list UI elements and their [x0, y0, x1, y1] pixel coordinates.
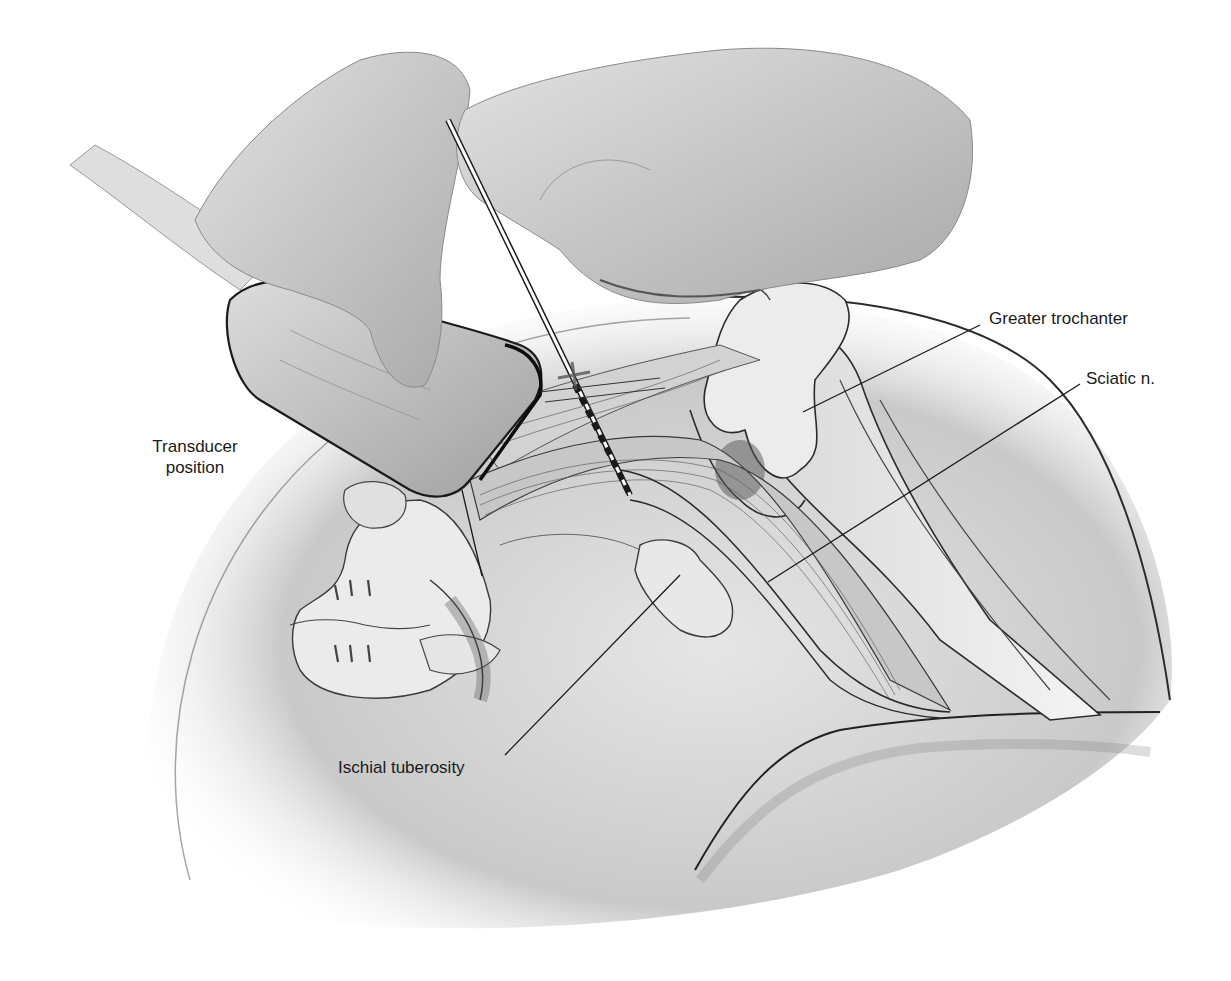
- label-transducer-line2: position: [140, 457, 250, 478]
- label-transducer-line1: Transducer: [140, 436, 250, 457]
- right-gloved-hand: [457, 48, 973, 303]
- label-greater-trochanter: Greater trochanter: [989, 308, 1128, 329]
- anatomy-drawing: [0, 0, 1231, 981]
- illustration: Transducer position Greater trochanter S…: [0, 0, 1231, 981]
- label-transducer-position: Transducer position: [140, 436, 250, 478]
- label-ischial-tuberosity: Ischial tuberosity: [338, 757, 465, 778]
- label-sciatic-nerve: Sciatic n.: [1086, 368, 1155, 389]
